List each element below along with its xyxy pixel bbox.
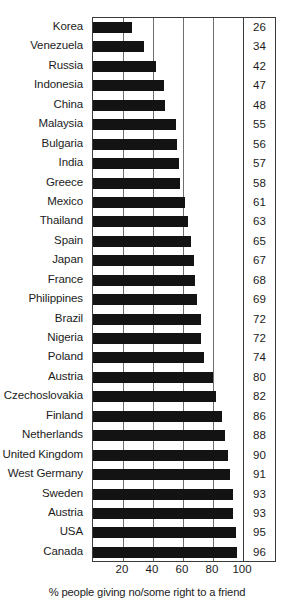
value-label: 86 [244, 407, 275, 426]
bar [93, 450, 228, 461]
category-label: Czechoslovakia [0, 386, 88, 405]
bar [93, 411, 222, 422]
bar [93, 158, 179, 169]
bar-row [93, 407, 243, 426]
value-label: 57 [244, 154, 275, 173]
bar [93, 275, 195, 286]
category-label: Japan [0, 250, 88, 269]
value-label: 26 [244, 18, 275, 37]
category-label: Canada [0, 542, 88, 561]
bar-row [93, 251, 243, 270]
bar-row [93, 387, 243, 406]
bar-row [93, 154, 243, 173]
category-label: Greece [0, 173, 88, 192]
category-label: Nigeria [0, 328, 88, 347]
bar [93, 61, 156, 72]
value-label: 96 [244, 543, 275, 562]
bar-row [93, 18, 243, 37]
bar-row [93, 543, 243, 562]
bar [93, 139, 177, 150]
value-label: 58 [244, 174, 275, 193]
value-label: 74 [244, 348, 275, 367]
bar [93, 119, 176, 130]
bar-row [93, 76, 243, 95]
category-label: Brazil [0, 309, 88, 328]
category-label: Sweden [0, 484, 88, 503]
value-label: 80 [244, 368, 275, 387]
bar [93, 430, 225, 441]
bar [93, 508, 233, 519]
category-label: Mexico [0, 192, 88, 211]
category-label: USA [0, 522, 88, 541]
category-label: China [0, 95, 88, 114]
value-label: 67 [244, 251, 275, 270]
bar-row [93, 174, 243, 193]
bar [93, 80, 164, 91]
category-label: Russia [0, 56, 88, 75]
category-label: Netherlands [0, 425, 88, 444]
category-labels: KoreaVenezuelaRussiaIndonesiaChinaMalays… [0, 17, 88, 561]
x-tick-label: 20 [109, 563, 135, 575]
bar-row [93, 523, 243, 542]
category-label: Austria [0, 367, 88, 386]
value-label: 90 [244, 446, 275, 465]
bar [93, 372, 213, 383]
bar [93, 294, 197, 305]
bar-row [93, 368, 243, 387]
bar [93, 41, 144, 52]
bar-chart: KoreaVenezuelaRussiaIndonesiaChinaMalays… [0, 0, 294, 610]
bar-row [93, 504, 243, 523]
bar-row [93, 446, 243, 465]
value-label: 93 [244, 504, 275, 523]
bar [93, 255, 194, 266]
value-label: 72 [244, 329, 275, 348]
plot-area [93, 18, 243, 561]
bar [93, 236, 191, 247]
x-tick-label: 40 [139, 563, 165, 575]
x-tick-label: 80 [199, 563, 225, 575]
value-label: 69 [244, 290, 275, 309]
category-label: Korea [0, 17, 88, 36]
chart-frame: 2634424748555657586163656768697272748082… [92, 17, 276, 562]
bar-row [93, 271, 243, 290]
category-label: Finland [0, 406, 88, 425]
value-label: 65 [244, 232, 275, 251]
bar [93, 22, 132, 33]
bar-series [93, 18, 243, 561]
value-label: 93 [244, 485, 275, 504]
value-label: 88 [244, 426, 275, 445]
category-label: Malaysia [0, 114, 88, 133]
category-label: United Kingdom [0, 445, 88, 464]
bar-row [93, 329, 243, 348]
bar-row [93, 115, 243, 134]
bar [93, 352, 204, 363]
bar [93, 197, 185, 208]
x-axis-label: % people giving no/some right to a frien… [0, 586, 294, 598]
category-label: Poland [0, 347, 88, 366]
bar-row [93, 348, 243, 367]
category-label: Spain [0, 231, 88, 250]
category-label: India [0, 153, 88, 172]
value-label: 61 [244, 193, 275, 212]
bar [93, 547, 237, 558]
category-label: Philippines [0, 289, 88, 308]
bar [93, 489, 233, 500]
bar [93, 216, 188, 227]
category-label: Austria [0, 503, 88, 522]
bar-row [93, 57, 243, 76]
value-label: 82 [244, 387, 275, 406]
bar [93, 100, 165, 111]
value-label: 63 [244, 212, 275, 231]
bar-row [93, 37, 243, 56]
value-label: 91 [244, 465, 275, 484]
value-labels-column: 2634424748555657586163656768697272748082… [244, 18, 275, 561]
category-label: France [0, 270, 88, 289]
bar-row [93, 135, 243, 154]
value-label: 34 [244, 37, 275, 56]
bar [93, 314, 201, 325]
category-label: Thailand [0, 211, 88, 230]
category-label: West Germany [0, 464, 88, 483]
value-label: 95 [244, 523, 275, 542]
bar [93, 527, 236, 538]
value-label: 55 [244, 115, 275, 134]
